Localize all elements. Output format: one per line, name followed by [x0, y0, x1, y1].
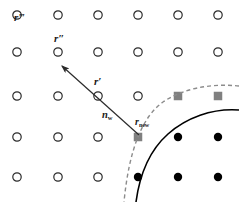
lattice-open-nodes	[13, 11, 222, 181]
lattice-node-open	[54, 133, 62, 141]
lattice-node-open	[54, 48, 62, 56]
lattice-node-open	[174, 11, 182, 19]
lattice-node-open	[54, 92, 62, 100]
lattice-node-open	[214, 48, 222, 56]
lattice-node-open	[13, 92, 21, 100]
lattice-node-open	[94, 48, 102, 56]
lattice-node-filled	[174, 133, 182, 141]
lattice-node-filled	[174, 173, 182, 181]
lattice-node-open	[134, 92, 142, 100]
lattice-node-open	[54, 11, 62, 19]
diagram-canvas: r‴ r″ r′ nw rnew	[0, 0, 239, 202]
wall-boundary-solid-curve	[136, 110, 239, 202]
diagram-svg	[0, 0, 239, 202]
lattice-node-open	[13, 173, 21, 181]
lattice-node-open	[54, 173, 62, 181]
lattice-node-open	[174, 48, 182, 56]
label-r-new: rnew	[135, 117, 149, 127]
lattice-node-open	[134, 11, 142, 19]
lattice-node-open	[94, 11, 102, 19]
wall-boundary-dashed-curve	[124, 85, 239, 202]
lattice-filled-nodes	[134, 133, 222, 181]
lattice-node-open	[13, 133, 21, 141]
lattice-node-open	[214, 11, 222, 19]
lattice-node-open	[134, 48, 142, 56]
lattice-node-square	[214, 92, 223, 101]
label-r-triple-prime: r‴	[14, 12, 24, 23]
label-r-double-prime: r″	[54, 33, 64, 44]
label-n-w: nw	[102, 110, 112, 121]
lattice-node-filled	[214, 173, 222, 181]
lattice-node-filled	[214, 133, 222, 141]
lattice-node-open	[94, 133, 102, 141]
label-r-prime: r′	[94, 76, 101, 87]
lattice-node-open	[13, 48, 21, 56]
lattice-node-open	[94, 173, 102, 181]
